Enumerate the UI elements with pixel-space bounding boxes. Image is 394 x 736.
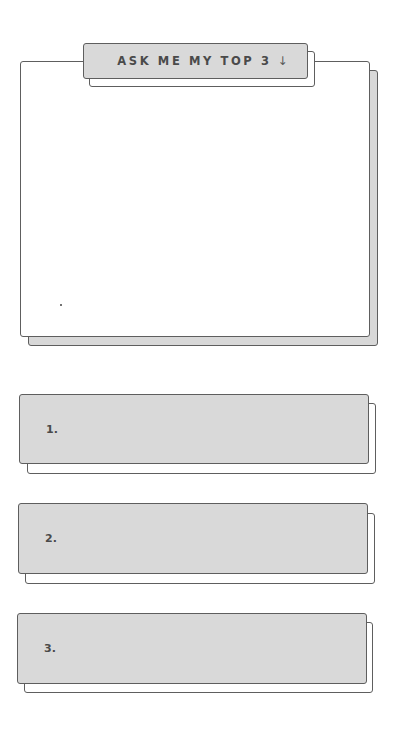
header-tab: ASK ME MY TOP 3 ↓	[83, 43, 308, 79]
header-title: ASK ME MY TOP 3	[117, 54, 271, 68]
rank-number: 3.	[44, 642, 56, 655]
rank-slot-1[interactable]: 1.	[19, 394, 369, 464]
rank-slot-3[interactable]: 3.	[17, 613, 367, 684]
rank-number: 1.	[46, 423, 58, 436]
rank-slot-2[interactable]: 2.	[18, 503, 368, 574]
stray-dot	[60, 304, 62, 306]
prompt-card[interactable]	[20, 61, 370, 337]
rank-number: 2.	[45, 532, 57, 545]
arrow-down-icon: ↓	[278, 54, 288, 68]
